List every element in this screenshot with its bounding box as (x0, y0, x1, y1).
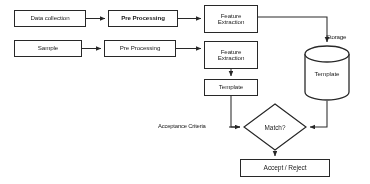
node-sample[interactable]: Sample (14, 40, 82, 57)
node-feature-extraction-2[interactable]: Feature Extraction (204, 41, 258, 69)
node-data-collection[interactable]: Data collection (14, 10, 86, 27)
node-accept-reject-label: Accept / Reject (241, 165, 329, 172)
edge-template-match (231, 96, 240, 127)
node-feature-extraction-2-line2: Extraction (205, 55, 257, 62)
node-pre-processing-2-label: Pre Processing (105, 45, 175, 52)
edge-featureextraction-storage (258, 17, 327, 42)
node-data-collection-label: Data collection (15, 15, 85, 22)
node-pre-processing-1-label: Pre Processing (109, 15, 177, 22)
label-storage: Storage (326, 33, 346, 40)
node-match-decision-label: Match? (243, 124, 307, 131)
node-feature-extraction-1[interactable]: Feature Extraction (204, 5, 258, 33)
node-pre-processing-2[interactable]: Pre Processing (104, 40, 176, 57)
node-pre-processing-1[interactable]: Pre Processing (108, 10, 178, 27)
node-feature-extraction-2-label: Feature Extraction (205, 49, 257, 62)
label-acceptance-criteria: Acceptance Criteria (158, 123, 206, 129)
node-accept-reject[interactable]: Accept / Reject (240, 159, 330, 177)
node-feature-extraction-1-label: Feature Extraction (205, 13, 257, 26)
edge-storage-match (310, 101, 327, 127)
node-sample-label: Sample (15, 45, 81, 52)
node-template[interactable]: Template (204, 79, 258, 96)
database-icon (304, 45, 350, 101)
node-match-decision[interactable]: Match? (243, 103, 307, 151)
flowchart-canvas: Data collection Pre Processing Feature E… (0, 0, 370, 184)
node-feature-extraction-1-line2: Extraction (205, 19, 257, 26)
node-template-label: Template (205, 84, 257, 91)
node-storage-cylinder[interactable]: Template (304, 45, 350, 101)
